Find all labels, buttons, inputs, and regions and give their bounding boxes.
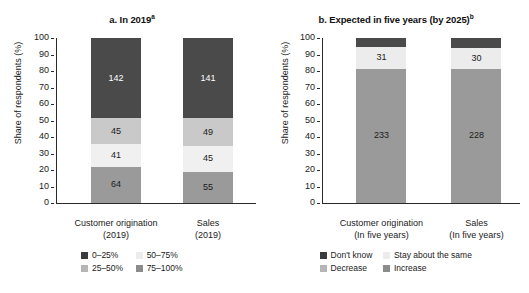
x-category-line: Sales [416,218,529,230]
y-tick-label: 30 [39,148,49,158]
y-tick-label: 90 [305,49,315,59]
bar-segment[interactable]: 228 [451,69,501,203]
legend-item[interactable]: 50–75% [136,250,182,260]
bar-segment[interactable]: 41 [91,144,141,167]
stacked-bar[interactable]: 644145142 [91,38,141,203]
y-tick-mark [51,55,54,56]
legend-item[interactable]: Decrease [320,263,372,273]
legend-label: Don't know [331,250,373,260]
legend-label: 0–25% [92,250,118,260]
panel-a-plot: Share of respondents (%) 010203040506070… [0,38,264,214]
y-tick-mark [317,55,320,56]
y-tick-label: 70 [39,82,49,92]
y-tick-mark [51,154,54,155]
stacked-bar-figure: a. In 2019a Share of respondents (%) 010… [0,0,529,293]
panel-a-legend-grid: 0–25%50–75%25–50%75–100% [0,250,264,273]
legend-swatch [383,252,390,259]
bar-segment-value: 41 [111,151,121,160]
y-tick-mark [317,187,320,188]
y-tick-mark [317,203,320,204]
legend-label: Increase [394,263,427,273]
legend-item[interactable]: 0–25% [81,250,123,260]
legend-swatch [81,252,88,259]
y-tick-mark [317,71,320,72]
legend-label: 50–75% [147,250,178,260]
y-tick-label: 60 [39,98,49,108]
legend-item[interactable]: 25–50% [81,263,123,273]
bar-segment[interactable]: 45 [91,118,141,143]
stacked-bar[interactable]: 554549141 [183,38,233,203]
bar-segment[interactable]: 55 [183,172,233,203]
y-tick-mark [51,71,54,72]
y-tick-label: 100 [34,32,49,42]
panel-b-legend: Don't knowStay about the sameDecreaseInc… [264,250,528,273]
panel-a-y-axis-label: Share of respondents (%) [13,18,23,168]
panel-a-x-categories: Customer origination(2019)Sales(2019) [0,214,264,244]
y-tick-mark [317,104,320,105]
bar-segment[interactable]: 141 [183,38,233,118]
y-tick-label: 100 [300,32,315,42]
legend-swatch [383,265,390,272]
bar-segment-value: 55 [203,183,213,192]
stacked-bar[interactable]: 22830 [451,38,501,203]
bar-segment-value: 49 [203,128,213,137]
panel-a-title-text: a. In 2019 [109,14,151,25]
y-tick-label: 10 [39,181,49,191]
bar-segment[interactable]: 31 [356,47,406,68]
legend-item[interactable]: Increase [383,263,471,273]
y-tick-label: 70 [305,82,315,92]
y-tick-mark [51,137,54,138]
y-tick-mark [51,170,54,171]
bar-segment[interactable] [356,38,406,47]
bar-segment[interactable]: 233 [356,69,406,203]
y-tick-label: 10 [305,181,315,191]
legend-label: 25–50% [92,263,123,273]
panel-b-title: b. Expected in five years (by 2025)b [264,13,528,25]
bar-segment[interactable]: 30 [451,48,501,69]
y-tick-label: 30 [305,148,315,158]
y-tick-mark [51,121,54,122]
legend-item[interactable]: Stay about the same [383,250,471,260]
legend-label: Stay about the same [394,250,472,260]
bar-segment[interactable]: 64 [91,167,141,203]
legend-label: 75–100% [147,263,183,273]
y-tick-mark [51,104,54,105]
panel-b-y-axis-label: Share of respondents (%) [280,18,290,168]
panel-b-bars: 2333122830 [322,38,522,203]
y-tick-label: 80 [305,65,315,75]
panel-b-x-categories: Customer origination(In five years)Sales… [264,214,528,244]
bar-segment[interactable]: 142 [91,38,141,118]
legend-label: Decrease [331,263,367,273]
y-tick-label: 40 [305,131,315,141]
y-tick-label: 0 [44,197,49,207]
legend-item[interactable]: Don't know [320,250,372,260]
panel-b-plot: Share of respondents (%) 010203040506070… [264,38,528,214]
y-tick-label: 40 [39,131,49,141]
bar-segment-value: 45 [203,154,213,163]
panel-a-title-superscript: a [151,13,155,20]
y-tick-mark [51,187,54,188]
panel-a-title: a. In 2019a [0,13,264,25]
y-tick-label: 0 [310,197,315,207]
legend-swatch [136,252,143,259]
panel-b-x-axis-line [322,203,520,204]
stacked-bar[interactable]: 23331 [356,38,406,203]
bar-segment[interactable]: 45 [183,146,233,172]
bar-segment[interactable] [451,38,501,48]
legend-swatch [136,265,143,272]
bar-segment-value: 30 [471,54,481,63]
legend-item[interactable]: 75–100% [136,263,182,273]
panel-b-title-superscript: b [470,13,474,20]
panel-b-axis-area: 0102030405060708090100 2333122830 [322,38,520,214]
bar-segment-value: 142 [108,74,123,83]
bar-segment-value: 233 [374,131,389,140]
bar-segment[interactable]: 49 [183,118,233,146]
bar-segment-value: 228 [469,131,484,140]
y-tick-label: 20 [39,164,49,174]
panel-a-legend: 0–25%50–75%25–50%75–100% [0,250,264,273]
x-category-line: Sales [148,218,268,230]
bar-segment-value: 45 [111,127,121,136]
y-tick-mark [51,88,54,89]
y-tick-mark [317,170,320,171]
y-tick-mark [51,203,54,204]
